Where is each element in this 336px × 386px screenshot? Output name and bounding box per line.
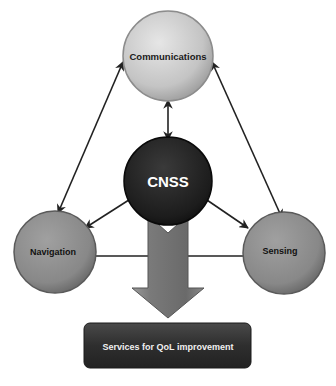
node-communications-label: Communications	[129, 51, 206, 62]
node-cnss[interactable]: CNSS	[124, 137, 212, 225]
node-navigation-label: Navigation	[30, 247, 76, 257]
cnss-diagram: Communications CNSS Navigation Sensing S…	[0, 0, 336, 386]
node-navigation[interactable]: Navigation	[14, 211, 96, 293]
node-sensing-label: Sensing	[262, 246, 297, 256]
node-cnss-label: CNSS	[147, 173, 189, 190]
node-communications[interactable]: Communications	[123, 11, 213, 101]
node-services-label: Services for QoL improvement	[103, 342, 234, 352]
node-services[interactable]: Services for QoL improvement	[84, 323, 251, 368]
edge-communications-sensing	[212, 62, 282, 218]
edge-cnss-navigation	[85, 198, 132, 228]
edge-cnss-sensing	[204, 198, 248, 228]
block-arrow-down-icon	[132, 215, 204, 318]
node-sensing[interactable]: Sensing	[243, 212, 325, 294]
edge-communications-navigation	[58, 62, 123, 213]
